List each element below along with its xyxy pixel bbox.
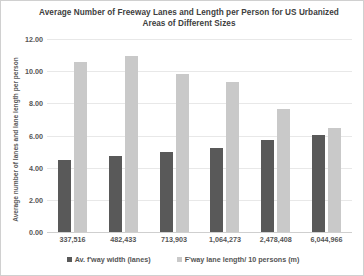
bar[interactable] [58, 160, 71, 232]
chart-container: Average Number of Freeway Lanes and Leng… [0, 0, 364, 276]
bar[interactable] [312, 135, 325, 232]
legend-label: F'way lane length/ 10 persons (m) [185, 255, 300, 264]
x-axis-line [47, 232, 352, 233]
bar[interactable] [109, 156, 122, 232]
chart-title: Average Number of Freeway Lanes and Leng… [29, 7, 349, 29]
chart-legend: Av. f'way width (lanes)F'way lane length… [1, 255, 364, 264]
y-axis-tick-label: 10.00 [3, 67, 43, 76]
legend-label: Av. f'way width (lanes) [75, 255, 151, 264]
bar-group [199, 39, 250, 232]
y-axis-tick-label: 8.00 [3, 99, 43, 108]
x-axis-tick-label: 337,516 [47, 235, 98, 244]
x-axis-tick-label: 482,433 [98, 235, 149, 244]
bar[interactable] [261, 140, 274, 232]
legend-swatch-icon [67, 257, 72, 262]
bar[interactable] [176, 74, 189, 232]
bar-group [47, 39, 98, 232]
bar[interactable] [125, 56, 138, 232]
bar[interactable] [74, 62, 87, 232]
x-axis-tick-label: 713,903 [149, 235, 200, 244]
y-axis-tick-label: 2.00 [3, 195, 43, 204]
bar-group [98, 39, 149, 232]
legend-item[interactable]: F'way lane length/ 10 persons (m) [177, 255, 300, 264]
y-axis-tick-label: 6.00 [3, 131, 43, 140]
y-axis-tick-label: 0.00 [3, 228, 43, 237]
bar[interactable] [210, 148, 223, 232]
x-axis-tick-label: 2,478,408 [250, 235, 301, 244]
plot-area [47, 39, 352, 232]
bar[interactable] [160, 152, 173, 232]
x-axis-tick-labels: 337,516482,433713,9031,064,2732,478,4086… [47, 235, 352, 244]
bar[interactable] [328, 128, 341, 232]
legend-swatch-icon [177, 257, 182, 262]
bar-group [149, 39, 200, 232]
bar[interactable] [226, 82, 239, 232]
y-axis-tick-label: 4.00 [3, 163, 43, 172]
bar-group [250, 39, 301, 232]
legend-item[interactable]: Av. f'way width (lanes) [67, 255, 151, 264]
y-axis-tick-label: 12.00 [3, 35, 43, 44]
x-axis-tick-label: 1,064,273 [199, 235, 250, 244]
bar-group [301, 39, 352, 232]
bars-layer [47, 39, 352, 232]
y-axis-tick-labels: 0.002.004.006.008.0010.0012.00 [1, 39, 43, 232]
bar[interactable] [277, 109, 290, 232]
x-axis-tick-label: 6,044,966 [301, 235, 352, 244]
